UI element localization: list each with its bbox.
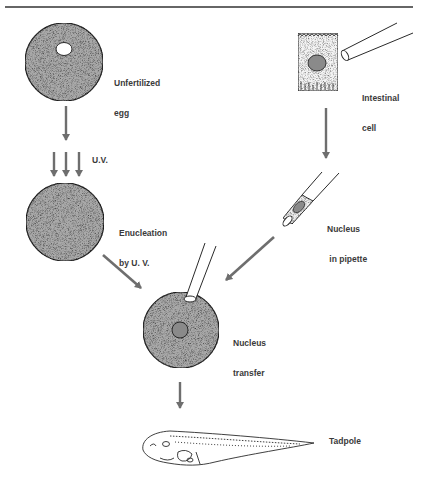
pipette-top <box>340 23 413 62</box>
label-line: by U. V. <box>119 258 167 268</box>
label-enucleation: Enucleation by U. V. <box>119 208 167 278</box>
unfertilized-egg <box>25 23 103 101</box>
cell-nucleus <box>308 55 326 71</box>
transferred-nucleus <box>172 322 188 338</box>
label-intestinal-cell: Intestinal cell <box>362 73 399 143</box>
label-line: Nucleus <box>327 224 367 234</box>
label-line: Enucleation <box>119 228 167 238</box>
label-line: Intestinal <box>362 93 399 103</box>
label-unfertilized-egg: Unfertilized egg <box>114 58 160 128</box>
label-nucleus-pipette: Nucleus in pipette <box>327 204 367 274</box>
intestinal-cell <box>298 33 338 91</box>
tadpole <box>143 431 314 465</box>
label-line: egg <box>114 108 160 118</box>
enucleated-egg <box>26 183 104 261</box>
label-line: in pipette <box>327 254 367 264</box>
label-line: cell <box>362 123 399 133</box>
label-tadpole: Tadpole <box>329 436 361 446</box>
uv-arrows <box>54 152 79 176</box>
label-uv: U.V. <box>92 155 108 165</box>
label-line: Unfertilized <box>114 78 160 88</box>
label-nucleus-transfer: Nucleus transfer <box>233 318 266 388</box>
label-line: Nucleus <box>233 338 266 348</box>
label-line: transfer <box>233 368 266 378</box>
egg-nucleus <box>56 43 72 56</box>
arrow-pipette-to-transfer <box>226 237 274 280</box>
